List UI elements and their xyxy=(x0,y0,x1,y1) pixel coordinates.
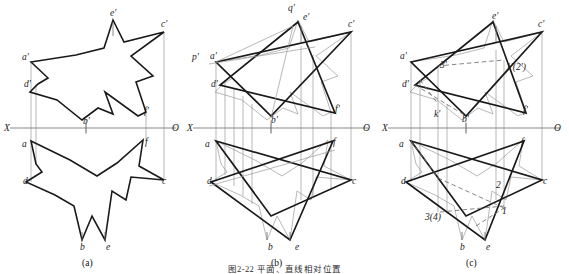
label-3-prime: 3' xyxy=(439,60,448,70)
label-d-prime: d' xyxy=(402,79,410,89)
vertex-ticks-b xyxy=(267,26,301,240)
label-f-prime: f' xyxy=(335,104,341,114)
star-top-a xyxy=(26,140,164,240)
label-b: b xyxy=(80,242,85,252)
label-p-prime: p' xyxy=(191,52,200,62)
axis-x-label-b: X xyxy=(186,123,194,133)
label-e-prime: e' xyxy=(110,8,117,18)
label-b-prime: b' xyxy=(462,114,470,124)
label-a: a xyxy=(399,139,404,149)
label-1: 1 xyxy=(502,206,507,216)
label-b: b xyxy=(268,242,273,252)
axis-x-label-a: X xyxy=(3,123,11,133)
axis-x-label-c: X xyxy=(381,123,389,133)
label-a-prime: a' xyxy=(210,51,218,61)
dashed-intersection-lines-c xyxy=(411,60,504,226)
label-a-prime: a' xyxy=(400,51,408,61)
label-c: c xyxy=(352,176,357,186)
label-c: c xyxy=(162,176,167,186)
label-d-prime: d' xyxy=(211,79,219,89)
label-b-prime: b' xyxy=(271,115,279,125)
label-d: d xyxy=(207,176,212,186)
label-e-prime: e' xyxy=(492,11,499,21)
label-k-prime: k' xyxy=(434,109,441,119)
label-q-prime: q' xyxy=(288,3,296,13)
label-1-2-prime: 1'(2') xyxy=(506,62,526,73)
label-d: d xyxy=(23,176,28,186)
label-d: d xyxy=(401,176,406,186)
panel-a: X O a' d' b' e' c' f' a d b e c f (a) xyxy=(0,0,185,274)
panel-b: X O p' a' d' b' q' e' c' f' a d b e c f … xyxy=(185,0,380,274)
triangle-top-2-c xyxy=(406,141,524,240)
label-e: e xyxy=(486,242,490,252)
label-a: a xyxy=(22,139,27,149)
label-e-prime: e' xyxy=(303,12,310,22)
projection-lines-c xyxy=(411,32,542,214)
label-a-prime: a' xyxy=(22,52,30,62)
label-b: b xyxy=(460,242,465,252)
label-f: f xyxy=(333,137,337,147)
label-a: a xyxy=(205,139,210,149)
axis-o-label-c: O xyxy=(554,123,561,133)
panel-c: X O a' d' k' 3' b' e' c' 1'(2') f' a d 3… xyxy=(380,0,569,274)
label-3-4: 3(4) xyxy=(424,212,441,223)
triangle-top-1-c xyxy=(411,141,542,216)
vertex-ticks-c xyxy=(462,26,496,240)
label-c-prime: c' xyxy=(538,19,545,29)
axis-o-label-b: O xyxy=(363,123,370,133)
vertex-ticks-a xyxy=(82,22,113,240)
label-f: f xyxy=(145,137,149,147)
label-f-prime: f' xyxy=(144,106,150,116)
label-c: c xyxy=(543,176,548,186)
label-f-prime: f' xyxy=(523,105,529,115)
label-e: e xyxy=(295,242,299,252)
label-e: e xyxy=(106,242,110,252)
label-c-prime: c' xyxy=(161,19,168,29)
figure-root: X O a' d' b' e' c' f' a d b e c f (a) xyxy=(0,0,569,274)
star-front-a xyxy=(30,20,164,120)
figure-caption: 图2-22 平面、直线相对位置 xyxy=(0,264,569,274)
label-2: 2 xyxy=(496,180,501,190)
label-b-prime: b' xyxy=(83,116,91,126)
label-c-prime: c' xyxy=(348,19,355,29)
label-d-prime: d' xyxy=(24,79,32,89)
axis-o-label-a: O xyxy=(172,123,179,133)
